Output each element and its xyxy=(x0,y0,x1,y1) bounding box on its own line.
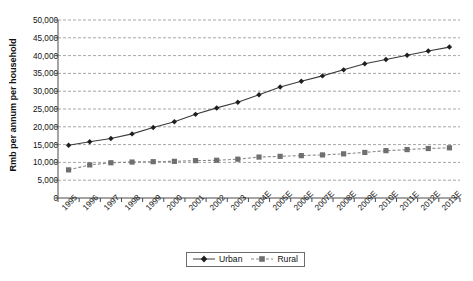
data-point-urban xyxy=(129,131,134,136)
data-point-rural xyxy=(383,148,388,153)
data-point-rural xyxy=(256,154,261,159)
data-point-urban xyxy=(447,44,452,49)
data-point-urban xyxy=(108,136,113,141)
data-point-rural xyxy=(66,167,71,172)
data-point-urban xyxy=(383,57,388,62)
data-point-urban xyxy=(277,84,282,89)
data-point-rural xyxy=(341,151,346,156)
data-point-urban xyxy=(214,105,219,110)
data-point-rural xyxy=(405,147,410,152)
legend-label-rural: Rural xyxy=(275,254,298,264)
data-point-urban xyxy=(151,125,156,130)
chart-legend: Urban Rural xyxy=(186,252,305,267)
data-point-rural xyxy=(278,154,283,159)
data-point-rural xyxy=(151,159,156,164)
data-point-urban xyxy=(87,139,92,144)
data-point-rural xyxy=(362,150,367,155)
legend-label-urban: Urban xyxy=(217,254,242,264)
data-point-urban xyxy=(235,100,240,105)
data-point-rural xyxy=(235,157,240,162)
data-point-rural xyxy=(129,159,134,164)
data-point-urban xyxy=(320,73,325,78)
data-point-urban xyxy=(404,53,409,58)
data-point-urban xyxy=(193,112,198,117)
data-point-rural xyxy=(299,153,304,158)
data-point-urban xyxy=(172,119,177,124)
data-point-rural xyxy=(193,158,198,163)
data-point-rural xyxy=(172,159,177,164)
data-point-rural xyxy=(320,152,325,157)
data-point-rural xyxy=(426,146,431,151)
data-point-urban xyxy=(341,67,346,72)
legend-item-rural: Rural xyxy=(251,254,298,264)
legend-rural-marker-icon xyxy=(251,254,273,264)
data-point-urban xyxy=(256,92,261,97)
legend-urban-marker-icon xyxy=(193,254,215,264)
chart-container: Rmb per annum per household 50,00045,000… xyxy=(0,0,473,281)
data-point-rural xyxy=(87,162,92,167)
data-point-rural xyxy=(447,145,452,150)
data-point-rural xyxy=(108,160,113,165)
plot-area xyxy=(0,0,473,281)
data-point-rural xyxy=(214,158,219,163)
data-point-urban xyxy=(362,61,367,66)
data-point-urban xyxy=(66,143,71,148)
data-point-urban xyxy=(426,48,431,53)
legend-item-urban: Urban xyxy=(193,254,242,264)
data-point-urban xyxy=(299,79,304,84)
